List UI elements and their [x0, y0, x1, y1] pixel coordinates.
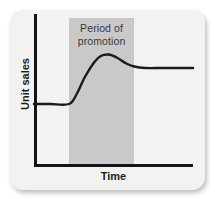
- plot-area: Period of promotion Unit sales Time: [10, 10, 205, 190]
- series-curve: [10, 10, 205, 190]
- chart-screenshot: Period of promotion Unit sales Time: [0, 0, 215, 199]
- x-axis-title: Time: [34, 170, 193, 182]
- figure-card: Period of promotion Unit sales Time: [10, 10, 205, 190]
- unit-sales-curve-path: [34, 54, 193, 104]
- y-axis-title: Unit sales: [19, 48, 31, 120]
